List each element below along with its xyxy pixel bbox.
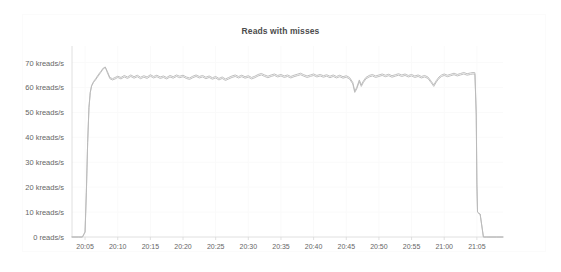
- tick-marks: [85, 237, 477, 240]
- y-axis-tick-label: 20 kreads/s: [0, 183, 64, 192]
- x-axis-tick-label: 20:05: [76, 243, 94, 250]
- x-axis-tick-label: 21:05: [468, 243, 486, 250]
- x-axis-tick-label: 20:55: [403, 243, 421, 250]
- x-axis-tick-label: 20:30: [240, 243, 258, 250]
- x-axis-tick-label: 20:35: [272, 243, 290, 250]
- x-axis-tick-label: 20:10: [109, 243, 127, 250]
- x-axis-tick-label: 20:15: [142, 243, 160, 250]
- x-axis-tick-label: 21:00: [435, 243, 453, 250]
- y-axis-tick-label: 10 kreads/s: [0, 208, 64, 217]
- y-axis-tick-label: 30 kreads/s: [0, 158, 64, 167]
- chart-figure: Reads with misses 70 kreads/s60 kreads/s…: [0, 0, 561, 272]
- y-axis-tick-label: 70 kreads/s: [0, 58, 64, 67]
- x-axis-tick-label: 20:40: [305, 243, 323, 250]
- y-axis-tick-label: 0 reads/s: [0, 233, 64, 242]
- x-axis-tick-label: 20:45: [338, 243, 356, 250]
- y-axis-tick-label: 50 kreads/s: [0, 108, 64, 117]
- series-line: [72, 67, 503, 237]
- series-lines: [72, 67, 503, 237]
- y-axis-tick-label: 60 kreads/s: [0, 83, 64, 92]
- x-axis-tick-label: 20:25: [207, 243, 225, 250]
- x-axis-tick-label: 20:20: [174, 243, 192, 250]
- y-axis-tick-label: 40 kreads/s: [0, 133, 64, 142]
- chart-plot-area: [0, 0, 561, 272]
- x-axis-tick-label: 20:50: [370, 243, 388, 250]
